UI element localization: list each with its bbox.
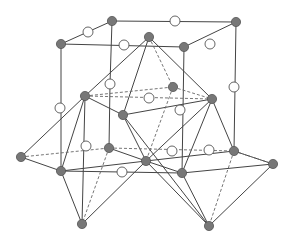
open-atom [204, 145, 214, 155]
bond-edges [21, 21, 273, 226]
octahedron-edge [182, 99, 212, 173]
filled-atom [168, 82, 177, 91]
open-atom [144, 93, 154, 103]
open-atom [167, 146, 177, 156]
filled-atom [231, 17, 240, 26]
hidden-edge [209, 151, 234, 226]
filled-atom [144, 32, 153, 41]
octahedron-edge [82, 96, 85, 224]
open-atom [229, 82, 239, 92]
octahedron-edge [182, 173, 209, 226]
octahedron-edge [209, 164, 273, 226]
filled-atom [104, 143, 113, 152]
filled-atom [179, 42, 188, 51]
filled-atom [80, 91, 89, 100]
filled-atom [204, 221, 213, 230]
open-atom [170, 16, 180, 26]
filled-atom [56, 166, 65, 175]
octahedron-edge [21, 157, 61, 171]
filled-atom [107, 16, 116, 25]
atoms [16, 16, 277, 231]
filled-atom [229, 146, 238, 155]
open-atom [119, 40, 129, 50]
filled-atom [16, 152, 25, 161]
open-atom [117, 167, 127, 177]
open-atom [83, 27, 93, 37]
filled-atom [56, 39, 65, 48]
octahedron-edge [82, 161, 146, 224]
open-atom [81, 141, 91, 151]
filled-atom [118, 110, 127, 119]
open-atom [55, 103, 65, 113]
hidden-edge [149, 37, 173, 87]
filled-atom [141, 156, 150, 165]
filled-atom [77, 219, 86, 228]
crystal-structure-diagram [0, 0, 293, 239]
filled-atom [268, 159, 277, 168]
hidden-edge [82, 148, 109, 224]
open-atom [105, 79, 115, 89]
open-atom [175, 105, 185, 115]
open-atom [205, 39, 215, 49]
hidden-edge [85, 87, 173, 96]
filled-atom [207, 94, 216, 103]
octahedron-edge [212, 99, 234, 151]
octahedron-edge [146, 161, 209, 226]
octahedron-edge [61, 171, 82, 224]
hidden-edge [21, 148, 109, 157]
cube-edge [110, 21, 112, 84]
octahedron-edge [109, 84, 110, 148]
octahedron-edge [85, 96, 123, 115]
filled-atom [177, 168, 186, 177]
